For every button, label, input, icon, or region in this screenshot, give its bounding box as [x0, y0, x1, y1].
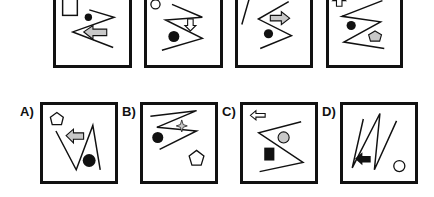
outline-triangle-sliver-icon: [241, 0, 249, 25]
option-a-label: A): [20, 104, 34, 119]
sequence-panel-2: [144, 0, 223, 68]
option-a-panel[interactable]: [40, 102, 118, 184]
option-a-figure: [43, 105, 115, 181]
panel-2-figure: [147, 0, 220, 65]
outline-circle-icon: [394, 161, 405, 172]
black-dot-icon: [347, 21, 356, 30]
outline-arrow-left-icon: [250, 111, 265, 120]
gray-pentagon-icon: [369, 31, 382, 41]
black-dot-icon: [264, 29, 273, 38]
gray-arrow-left-icon: [66, 129, 84, 143]
zigzag-icon: [162, 4, 202, 50]
sequence-panel-4: [326, 0, 403, 68]
sequence-panel-3: [235, 0, 313, 68]
option-b-panel[interactable]: [140, 102, 218, 184]
gray-circle-icon: [278, 132, 289, 143]
panel-3-figure: [238, 0, 310, 65]
option-b-label: B): [122, 104, 136, 119]
panel-4-figure: [329, 0, 400, 65]
black-arrow-left-icon: [355, 152, 371, 165]
gray-arrow-right-icon: [270, 12, 289, 25]
outline-arrow-up-icon: [333, 0, 346, 6]
option-b-figure: [143, 105, 215, 181]
black-dot-icon: [83, 154, 96, 167]
option-d-label: D): [322, 104, 336, 119]
zigzag-icon: [258, 2, 291, 49]
black-dot-icon: [85, 14, 92, 21]
zigzag-icon: [150, 111, 196, 150]
black-dot-icon: [152, 132, 163, 143]
option-c-label: C): [222, 104, 236, 119]
outline-pentagon-icon: [189, 150, 204, 165]
black-square-icon: [264, 148, 274, 161]
zigzag-icon: [259, 122, 303, 172]
outline-arrow-down-icon: [185, 19, 196, 31]
option-c-panel[interactable]: [240, 102, 318, 184]
outline-circle-icon: [151, 0, 160, 9]
sequence-panel-1: [53, 0, 132, 68]
outline-rectangle-icon: [63, 0, 78, 15]
option-d-panel[interactable]: [340, 102, 418, 184]
panel-1-figure: [56, 0, 129, 65]
option-d-figure: [343, 105, 415, 181]
outline-pentagon-icon: [50, 113, 63, 125]
black-dot-icon: [168, 31, 179, 42]
option-c-figure: [243, 105, 315, 181]
